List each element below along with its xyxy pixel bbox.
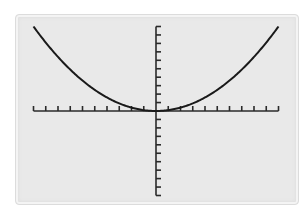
graph-plot (0, 0, 306, 210)
